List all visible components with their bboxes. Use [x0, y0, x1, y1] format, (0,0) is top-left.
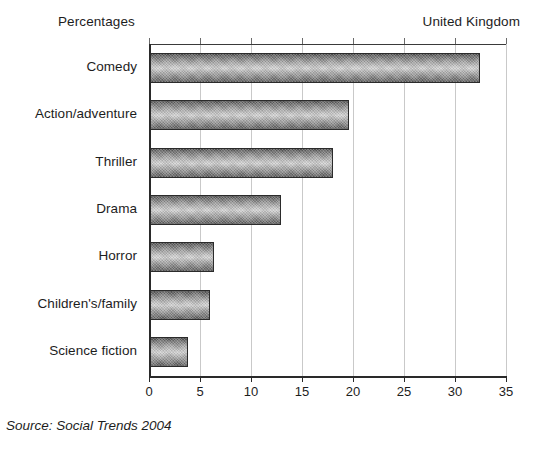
x-tick-top — [404, 38, 405, 44]
x-tick-label: 20 — [346, 384, 360, 399]
x-tick-mark — [455, 376, 456, 382]
gridline — [302, 44, 303, 376]
bar — [150, 148, 333, 178]
x-tick-label: 5 — [196, 384, 203, 399]
plot-top-border — [149, 44, 506, 45]
x-tick-label: 0 — [145, 384, 152, 399]
category-label: Drama — [96, 201, 137, 216]
plot-area: 05101520253035 — [149, 44, 506, 378]
region-label: United Kingdom — [423, 14, 520, 29]
x-tick-top — [149, 38, 150, 44]
source-note: Source: Social Trends 2004 — [6, 418, 172, 433]
x-tick-top — [251, 38, 252, 44]
x-tick-top — [506, 38, 507, 44]
bar — [150, 195, 281, 225]
x-tick-label: 15 — [295, 384, 309, 399]
bar — [150, 53, 480, 83]
x-tick-mark — [302, 376, 303, 382]
x-tick-top — [200, 38, 201, 44]
category-label: Comedy — [86, 59, 137, 74]
x-tick-label: 25 — [397, 384, 411, 399]
category-label: Thriller — [95, 154, 137, 169]
gridline — [353, 44, 354, 376]
x-tick-mark — [251, 376, 252, 382]
gridline — [455, 44, 456, 376]
x-tick-mark — [200, 376, 201, 382]
gridline — [404, 44, 405, 376]
x-axis-line — [149, 376, 506, 378]
x-tick-mark — [506, 376, 507, 382]
bar — [150, 100, 349, 130]
chart-figure: Percentages United Kingdom ComedyAction/… — [0, 0, 534, 452]
x-tick-mark — [404, 376, 405, 382]
category-label: Horror — [98, 248, 137, 263]
gridline — [506, 44, 507, 376]
x-tick-mark — [149, 376, 150, 382]
bar — [150, 337, 188, 367]
category-label: Children's/family — [38, 296, 137, 311]
bar — [150, 242, 214, 272]
bar — [150, 290, 210, 320]
x-tick-top — [302, 38, 303, 44]
category-label: Action/adventure — [35, 106, 137, 121]
x-tick-top — [455, 38, 456, 44]
x-tick-label: 10 — [244, 384, 258, 399]
x-tick-mark — [353, 376, 354, 382]
x-tick-label: 35 — [499, 384, 513, 399]
x-tick-top — [353, 38, 354, 44]
x-tick-label: 30 — [448, 384, 462, 399]
category-label: Science fiction — [49, 343, 137, 358]
units-label: Percentages — [58, 14, 135, 29]
